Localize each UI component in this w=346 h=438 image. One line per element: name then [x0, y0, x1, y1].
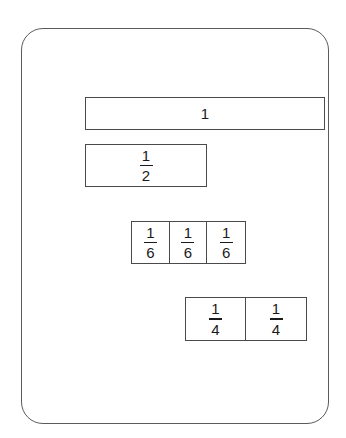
fraction-cell[interactable]: 1 4 — [246, 298, 306, 340]
fraction-cell[interactable]: 1 6 — [170, 222, 208, 263]
fraction-denominator: 6 — [220, 244, 232, 260]
fraction-rule — [270, 318, 283, 319]
fraction-rule — [220, 242, 233, 243]
fraction-numerator: 1 — [220, 225, 232, 241]
fraction-glyph: 1 4 — [270, 301, 283, 336]
whole-value: 1 — [201, 106, 210, 121]
fraction-numerator: 1 — [182, 225, 194, 241]
fraction-numerator: 1 — [270, 301, 282, 317]
fraction-glyph: 1 2 — [140, 148, 153, 183]
fraction-numerator: 1 — [144, 225, 156, 241]
fraction-rule — [181, 242, 194, 243]
fraction-denominator: 6 — [144, 244, 156, 260]
fraction-glyph: 1 6 — [181, 225, 194, 260]
fraction-rule — [209, 318, 222, 319]
fraction-bar-halves[interactable]: 1 2 — [85, 144, 207, 187]
fraction-bar-sixths[interactable]: 1 6 1 6 1 6 — [131, 221, 246, 264]
fraction-numerator: 1 — [209, 301, 221, 317]
fraction-cell[interactable]: 1 4 — [186, 298, 246, 340]
fraction-glyph: 1 6 — [220, 225, 233, 260]
fraction-cell[interactable]: 1 2 — [86, 145, 206, 186]
fraction-cell[interactable]: 1 — [86, 98, 324, 129]
fraction-bar-whole[interactable]: 1 — [85, 97, 325, 130]
fraction-cell[interactable]: 1 6 — [207, 222, 245, 263]
fraction-numerator: 1 — [140, 148, 152, 164]
fraction-glyph: 1 4 — [209, 301, 222, 336]
fraction-glyph: 1 6 — [144, 225, 157, 260]
fraction-denominator: 2 — [140, 167, 152, 183]
fraction-rule — [144, 242, 157, 243]
diagram-frame: 1 1 2 1 6 — [21, 28, 329, 424]
fraction-denominator: 4 — [270, 321, 282, 337]
fraction-rule — [140, 165, 153, 166]
fraction-cell[interactable]: 1 6 — [132, 222, 170, 263]
fraction-denominator: 6 — [182, 244, 194, 260]
fraction-denominator: 4 — [209, 321, 221, 337]
diagram-canvas: 1 1 2 1 6 — [0, 0, 346, 438]
fraction-bar-fourths[interactable]: 1 4 1 4 — [185, 297, 307, 341]
